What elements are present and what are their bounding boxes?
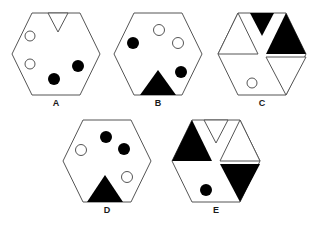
figure-e[interactable]	[168, 117, 264, 205]
circle-upper-left-d	[76, 145, 87, 156]
figure-label-b: B	[148, 98, 168, 108]
circle-bottom-center-a	[48, 73, 60, 85]
circle-lower-right-b	[175, 66, 187, 78]
figure-c[interactable]	[214, 10, 310, 98]
figure-b[interactable]	[112, 10, 204, 98]
circle-lower-left-a	[25, 59, 35, 69]
circle-bottom-center-c	[247, 78, 257, 88]
figure-label-e: E	[206, 205, 226, 215]
circle-top-center-d	[100, 131, 112, 143]
circle-upper-left-a	[25, 31, 35, 41]
figure-label-a: A	[46, 98, 66, 108]
figure-label-c: C	[252, 98, 272, 108]
circle-right-lower-a	[72, 60, 84, 72]
circle-upper-right-d	[118, 143, 130, 155]
puzzle-canvas: A B C	[0, 0, 313, 226]
circle-lower-right-d	[122, 172, 133, 183]
circle-top-center-b	[154, 25, 165, 36]
figure-d[interactable]	[61, 117, 153, 205]
circle-upper-right-b	[173, 38, 184, 49]
figure-a[interactable]	[10, 10, 102, 98]
figure-label-d: D	[97, 205, 117, 215]
circle-bottom-center-e	[200, 184, 212, 196]
circle-upper-left-b	[127, 37, 139, 49]
